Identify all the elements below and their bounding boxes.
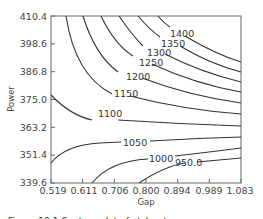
contour-plot: 339.6 351.4 363.2 375.0 386.8 398.6 410.… <box>0 0 263 219</box>
contour-1150 <box>66 16 112 94</box>
x-tick-label: 0.894 <box>163 185 190 196</box>
y-tick-label: 398.6 <box>20 38 47 49</box>
contour-lines <box>51 16 241 183</box>
y-tick-label: 363.2 <box>20 122 47 133</box>
x-tick-label: 0.706 <box>101 185 128 196</box>
contour-1100 <box>118 120 241 126</box>
x-tick-label: 1.083 <box>226 185 253 196</box>
contour-1150 <box>130 96 241 114</box>
contour-1250 <box>101 16 133 56</box>
y-tick-label: 410.4 <box>20 11 47 22</box>
contour-950 <box>197 158 241 162</box>
contour-1100 <box>51 95 92 120</box>
contour-label: 1400 <box>170 28 194 39</box>
y-axis-title: Power <box>6 86 16 112</box>
contour-label: 1250 <box>139 57 163 68</box>
contour-label: 950.0 <box>175 157 202 168</box>
contour-label: 1100 <box>98 108 122 119</box>
contour-1300 <box>119 16 143 46</box>
contour-labels: 950.0 1000 1050 1100 1150 1200 1250 1300… <box>98 28 202 168</box>
contour-label: 1150 <box>114 88 138 99</box>
x-axis-title: Gap <box>137 197 154 207</box>
contour-label: 1200 <box>126 71 150 82</box>
contour-1400 <box>158 16 170 27</box>
contour-1050 <box>51 142 121 163</box>
figure-caption: Figure 10.1 Contour plot of etch rate <box>8 216 173 219</box>
x-tick-label: 0.519 <box>39 185 66 196</box>
contour-label: 1000 <box>149 153 173 164</box>
contour-1000 <box>92 159 148 183</box>
x-tick-label: 0.611 <box>70 185 97 196</box>
y-tick-label: 375.0 <box>20 94 47 105</box>
x-tick-label: 0.989 <box>195 185 222 196</box>
y-axis: 339.6 351.4 363.2 375.0 386.8 398.6 410.… <box>6 11 55 189</box>
contour-1350 <box>138 16 160 37</box>
contour-1200 <box>142 78 241 103</box>
contour-label: 1050 <box>123 137 147 148</box>
y-tick-label: 386.8 <box>20 66 47 77</box>
contour-1400 <box>185 36 241 62</box>
contour-1000 <box>175 148 241 156</box>
contour-1200 <box>83 16 118 72</box>
x-tick-label: 0.800 <box>132 185 159 196</box>
contour-1050 <box>150 137 241 141</box>
contour-label: 1350 <box>161 38 185 49</box>
y-tick-label: 351.4 <box>20 149 47 160</box>
